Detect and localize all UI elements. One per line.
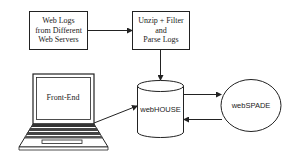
web-logs-line-1: Web Logs	[29, 16, 88, 26]
webhouse-label: webHOUSE	[137, 105, 184, 115]
webspade-label: webSPADE	[221, 101, 281, 111]
unzip-filter-label: Unzip + Filter and Parse Logs	[132, 16, 190, 45]
front-end-label: Front-End	[36, 93, 90, 103]
arrow-frontend-to-webhouse	[94, 106, 137, 123]
unzip-line-1: Unzip + Filter	[132, 16, 190, 26]
unzip-line-3: Parse Logs	[132, 35, 190, 45]
laptop-icon	[19, 74, 108, 150]
unzip-line-2: and	[132, 26, 190, 36]
web-logs-line-3: Web Servers	[29, 35, 88, 45]
web-logs-label: Web Logs from Different Web Servers	[29, 16, 88, 45]
web-logs-line-2: from Different	[29, 26, 88, 36]
